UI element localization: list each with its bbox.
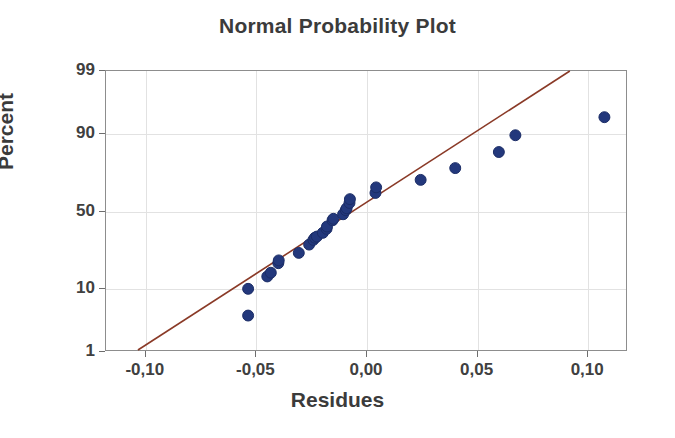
- data-point: [415, 174, 426, 185]
- x-axis-tick-label: -0,05: [236, 360, 275, 380]
- plot-area: [105, 70, 627, 351]
- x-axis-tick-label: -0,10: [125, 360, 164, 380]
- y-axis-title: Percent: [0, 93, 18, 170]
- x-axis-tick-mark: [145, 351, 146, 357]
- data-point: [243, 310, 254, 321]
- y-axis-tick-label: 50: [55, 201, 95, 221]
- x-axis-tick-label: 0,05: [460, 360, 493, 380]
- data-point: [273, 255, 284, 266]
- data-point: [599, 112, 610, 123]
- data-point: [243, 283, 254, 294]
- data-point: [450, 163, 461, 174]
- x-axis-tick-mark: [477, 351, 478, 357]
- data-point: [344, 194, 355, 205]
- y-axis-tick-mark: [99, 288, 105, 289]
- data-point: [510, 130, 521, 141]
- y-axis-tick-label: 99: [55, 60, 95, 80]
- data-point: [265, 267, 276, 278]
- x-axis-tick-mark: [587, 351, 588, 357]
- y-axis-tick-mark: [99, 133, 105, 134]
- data-point: [293, 247, 304, 258]
- y-axis-tick-label: 1: [55, 341, 95, 361]
- x-axis-tick-mark: [255, 351, 256, 357]
- data-layer: [106, 71, 626, 350]
- y-axis-tick-label: 10: [55, 278, 95, 298]
- data-points: [243, 112, 610, 321]
- data-point: [493, 147, 504, 158]
- x-axis-tick-label: 0,10: [571, 360, 604, 380]
- y-axis-tick-mark: [99, 351, 105, 352]
- x-axis-title: Residues: [0, 388, 675, 412]
- data-point: [371, 182, 382, 193]
- page-title: Normal Probability Plot: [0, 14, 675, 38]
- y-axis-tick-mark: [99, 211, 105, 212]
- x-axis-tick-mark: [366, 351, 367, 357]
- normal-reference-line: [138, 71, 570, 350]
- x-axis-tick-label: 0,00: [349, 360, 382, 380]
- y-axis-tick-mark: [99, 70, 105, 71]
- normal-probability-plot-figure: Normal Probability Plot 110509099 -0,10-…: [0, 0, 675, 438]
- y-axis-tick-label: 90: [55, 123, 95, 143]
